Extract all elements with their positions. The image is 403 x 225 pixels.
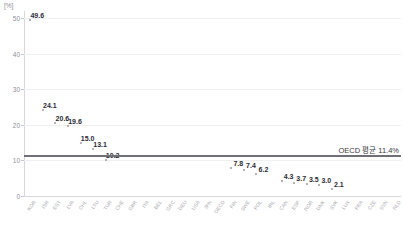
x-axis-category-label: DNK (315, 199, 326, 211)
data-point-value-label: 6.2 (259, 166, 269, 173)
data-point-value-label: 3.0 (321, 177, 331, 184)
x-axis-category-label: LTU (90, 199, 100, 210)
x-axis-category-label: KOR (26, 199, 37, 212)
x-axis-category-label: SVN (378, 199, 389, 211)
y-axis-tick-mark (21, 54, 24, 55)
gridline (24, 89, 401, 90)
y-axis-unit-label: [%] (4, 2, 13, 9)
x-axis-category-label: SWE (239, 199, 251, 212)
data-point (255, 173, 257, 175)
plot-area: 49.624.120.619.615.013.110.27.87.46.24.3… (24, 11, 401, 196)
data-point (281, 180, 283, 182)
x-axis-category-label: GRC (164, 199, 175, 212)
data-point-value-label: 49.6 (30, 12, 44, 19)
oecd-average-label: OECD 평균 11.4% (338, 144, 399, 155)
x-axis-category-label: JPN (203, 199, 214, 210)
x-axis-category-label: FIN (229, 199, 239, 209)
y-axis-tick-mark (21, 18, 24, 19)
x-axis-category-label: NOR (302, 199, 313, 212)
y-axis-tick-mark (21, 160, 24, 161)
data-point-value-label: 7.4 (246, 162, 256, 169)
x-axis-category-label: ESP (290, 199, 301, 211)
x-axis-category-label: USA (190, 199, 201, 211)
data-point-value-label: 3.5 (309, 176, 319, 183)
x-axis-category-label: CAN (277, 199, 288, 211)
data-point (42, 109, 44, 111)
x-axis-category-label: CHE (114, 199, 125, 211)
x-axis-category-label: CZE (366, 199, 377, 211)
data-point (54, 122, 56, 124)
y-axis-tick-mark (21, 125, 24, 126)
data-point-value-label: 3.7 (296, 175, 306, 182)
x-axis-category-label: SVK (328, 199, 339, 211)
data-point-value-label: 24.1 (43, 102, 57, 109)
x-axis-line (24, 196, 401, 197)
gridline (24, 54, 401, 55)
data-point-value-label: 2.1 (334, 181, 344, 188)
x-axis-category-label: CHL (77, 199, 88, 211)
gridline (24, 18, 401, 19)
data-point (105, 159, 107, 161)
x-axis-category-label: EST (52, 199, 63, 211)
data-point (243, 169, 245, 171)
x-axis-category-label: NLD (391, 199, 402, 211)
y-axis-tick-label: 10 (0, 157, 20, 164)
y-axis-tick-mark (21, 196, 24, 197)
x-axis-category-label: ISR (40, 199, 50, 210)
data-point (306, 183, 308, 185)
chart-title (0, 0, 403, 4)
x-axis-category-label: LUX (341, 199, 352, 211)
y-axis-tick-label: 0 (0, 193, 20, 200)
data-point (29, 19, 31, 21)
chart-container: [%] 49.624.120.619.615.013.110.27.87.46.… (0, 0, 403, 225)
data-point (293, 182, 295, 184)
x-axis-category-label: IRL (266, 199, 276, 209)
data-point (230, 167, 232, 169)
x-axis-category-label: DEU (177, 199, 188, 211)
gridline (24, 160, 401, 161)
y-axis-tick-label: 30 (0, 86, 20, 93)
data-point-value-label: 7.8 (233, 160, 243, 167)
x-axis-category-label: POL (253, 199, 264, 211)
y-axis-tick-label: 40 (0, 50, 20, 57)
data-point-value-label: 4.3 (284, 173, 294, 180)
data-point-value-label: 19.6 (68, 118, 82, 125)
x-axis-category-label: FRA (353, 199, 364, 211)
data-point (318, 184, 320, 186)
data-point (80, 142, 82, 144)
x-axis-category-label: GBR (126, 199, 137, 212)
x-axis-category-label: LVA (65, 199, 75, 210)
x-axis-category-label: ITA (141, 199, 150, 209)
oecd-average-line (24, 155, 401, 156)
data-point (92, 148, 94, 150)
x-axis-category-label: BEL (152, 199, 163, 210)
x-axis-category-label: TUR (102, 199, 113, 211)
data-point (67, 125, 69, 127)
y-axis-tick-label: 50 (0, 15, 20, 22)
data-point-value-label: 13.1 (93, 141, 107, 148)
x-axis-category-label: OECD (212, 199, 225, 215)
y-axis-tick-mark (21, 89, 24, 90)
data-point (331, 188, 333, 190)
y-axis-tick-label: 20 (0, 121, 20, 128)
